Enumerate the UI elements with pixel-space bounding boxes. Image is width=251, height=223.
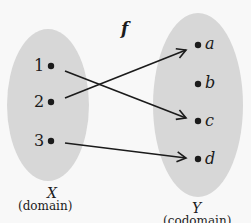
domain-element-label-3: 3 (34, 133, 44, 149)
codomain-element-label-a: a (205, 36, 215, 52)
domain-point-3 (48, 138, 54, 144)
codomain-point-c (195, 118, 201, 124)
codomain-element-label-c: c (205, 113, 214, 129)
function-label: f (121, 20, 128, 37)
codomain-point-d (195, 156, 201, 162)
codomain-set-ellipse (153, 13, 243, 197)
domain-set-ellipse (7, 29, 89, 181)
codomain-point-a (195, 42, 201, 48)
domain-caption: (domain) (18, 200, 72, 212)
codomain-element-label-d: d (205, 151, 215, 167)
codomain-element-label-b: b (205, 75, 215, 91)
function-mapping-diagram: f 1 2 3 a b c d X (domain) Y (codomain) (0, 0, 251, 223)
domain-element-label-1: 1 (34, 58, 44, 74)
codomain-point-b (195, 81, 201, 87)
domain-set-name: X (47, 186, 57, 200)
codomain-set-name: Y (192, 201, 201, 215)
codomain-caption: (codomain) (163, 215, 231, 223)
domain-point-1 (48, 63, 54, 69)
domain-element-label-2: 2 (34, 94, 44, 110)
domain-point-2 (48, 99, 54, 105)
